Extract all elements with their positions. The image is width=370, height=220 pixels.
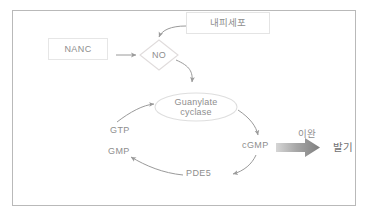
node-pde5: PDE5: [186, 168, 211, 178]
edge-no-to-cycle: [176, 60, 192, 82]
label-relaxation: 이완: [298, 126, 316, 140]
node-endothelium: 내피세포: [186, 12, 270, 34]
node-cgmp: cGMP: [242, 140, 269, 150]
label-erection: 발기: [333, 139, 353, 154]
edge-gtp-to-guanylate-cyclase: [117, 104, 154, 122]
edge-endothelium-to-no: [159, 26, 186, 37]
diagram-canvas: NANC 내피세포 NO Guanylate cyclase GTP GMP c…: [0, 0, 370, 220]
node-guanylate-cyclase: Guanylate cyclase: [158, 94, 234, 120]
edge-cgmp-to-pde5: [233, 155, 256, 174]
relaxation-block-arrow: [276, 138, 320, 157]
node-nanc: NANC: [48, 38, 108, 60]
edge-guanylate-cyclase-to-cgmp: [238, 110, 258, 135]
node-gmp: GMP: [108, 146, 130, 156]
edge-pde5-to-gmp: [131, 157, 183, 175]
node-gtp: GTP: [110, 125, 130, 135]
node-no: NO: [142, 44, 176, 66]
